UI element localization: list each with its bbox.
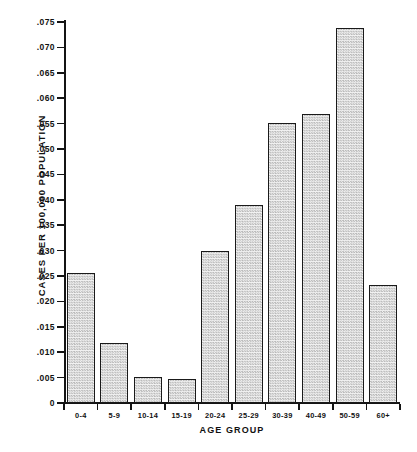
- y-tick-label-text: .055: [3, 119, 55, 129]
- y-tick-label-text: .070: [3, 42, 55, 52]
- bar-20-24: [201, 251, 229, 403]
- y-tick-label-text: .015: [3, 322, 55, 332]
- y-tick-label-text: .025: [3, 271, 55, 281]
- x-tick-mark: [130, 404, 132, 410]
- y-tick-label: .030: [0, 246, 55, 256]
- y-tick-mark: [57, 21, 64, 23]
- y-axis-line: [64, 20, 66, 404]
- bar-50-59: [336, 28, 364, 403]
- x-tick-mark: [198, 404, 200, 410]
- y-tick-label: .050: [0, 144, 55, 154]
- y-tick-mark: [57, 72, 64, 74]
- y-tick-label: .070: [0, 42, 55, 52]
- y-tick-label-text: .045: [3, 169, 55, 179]
- y-tick-label: 0: [0, 398, 55, 408]
- bar-30-39: [268, 123, 296, 403]
- y-tick-label-text: .020: [3, 296, 55, 306]
- y-tick-label-text: .075: [3, 17, 55, 27]
- x-tick-label-5-9: 5-9: [98, 411, 132, 420]
- x-tick-mark: [231, 404, 233, 410]
- bar-15-19: [168, 379, 196, 403]
- x-tick-mark: [164, 404, 166, 410]
- y-tick-label-text: .060: [3, 93, 55, 103]
- x-tick-mark: [97, 404, 99, 410]
- y-tick-mark: [57, 174, 64, 176]
- y-tick-label: .060: [0, 93, 55, 103]
- y-tick-mark: [57, 148, 64, 150]
- x-tick-mark: [63, 404, 65, 410]
- x-tick-mark: [298, 404, 300, 410]
- x-axis-title: AGE GROUP: [64, 425, 400, 435]
- y-tick-mark: [57, 47, 64, 49]
- y-tick-mark: [57, 250, 64, 252]
- y-tick-label: .035: [0, 220, 55, 230]
- bar-10-14: [134, 377, 162, 403]
- bar-0-4: [67, 273, 95, 403]
- y-tick-label-text: .035: [3, 220, 55, 230]
- y-tick-mark: [57, 377, 64, 379]
- x-tick-mark: [332, 404, 334, 410]
- y-tick-label-text: .050: [3, 144, 55, 154]
- y-tick-mark: [57, 275, 64, 277]
- bar-25-29: [235, 205, 263, 403]
- x-tick-mark: [399, 404, 401, 410]
- y-tick-mark: [57, 326, 64, 328]
- x-tick-mark: [265, 404, 267, 410]
- y-tick-label: .055: [0, 119, 55, 129]
- x-tick-label-60plus: 60+: [366, 411, 400, 420]
- x-tick-mark: [366, 404, 368, 410]
- y-tick-mark: [57, 123, 64, 125]
- bar-5-9: [100, 343, 128, 403]
- y-tick-label-text: .040: [3, 195, 55, 205]
- bar-40-49: [302, 114, 330, 403]
- y-tick-label-text: .030: [3, 246, 55, 256]
- x-tick-label-50-59: 50-59: [333, 411, 367, 420]
- y-tick-label: .015: [0, 322, 55, 332]
- bar-60plus: [369, 285, 397, 403]
- x-tick-label-20-24: 20-24: [198, 411, 232, 420]
- x-tick-label-0-4: 0-4: [64, 411, 98, 420]
- y-tick-label-text: 0: [3, 398, 55, 408]
- y-tick-label: .065: [0, 68, 55, 78]
- y-tick-mark: [57, 301, 64, 303]
- y-tick-label: .025: [0, 271, 55, 281]
- x-tick-label-25-29: 25-29: [232, 411, 266, 420]
- y-tick-label: .045: [0, 169, 55, 179]
- y-tick-mark: [57, 199, 64, 201]
- bar-chart: CASES PER 100,000 POPULATION 0.005.010.0…: [0, 0, 417, 452]
- y-tick-label: .005: [0, 373, 55, 383]
- y-tick-label-text: .065: [3, 68, 55, 78]
- y-tick-label: .075: [0, 17, 55, 27]
- y-tick-label: .020: [0, 296, 55, 306]
- y-tick-label: .040: [0, 195, 55, 205]
- y-tick-label: .010: [0, 347, 55, 357]
- x-tick-label-40-49: 40-49: [299, 411, 333, 420]
- x-tick-label-30-39: 30-39: [266, 411, 300, 420]
- y-tick-mark: [57, 351, 64, 353]
- x-tick-label-15-19: 15-19: [165, 411, 199, 420]
- y-tick-mark: [57, 97, 64, 99]
- y-tick-label-text: .005: [3, 373, 55, 383]
- x-tick-label-10-14: 10-14: [131, 411, 165, 420]
- y-tick-label-text: .010: [3, 347, 55, 357]
- y-tick-mark: [57, 224, 64, 226]
